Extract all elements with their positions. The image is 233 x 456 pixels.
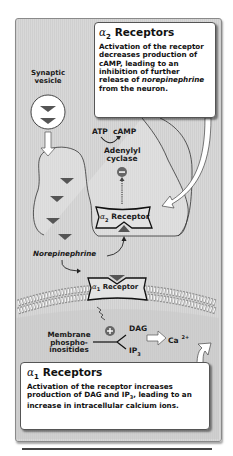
- atp-label: ATP: [92, 128, 108, 136]
- alpha1-callout-body: Activation of the receptor increases pro…: [27, 383, 203, 410]
- synaptic-vesicle-label: Synaptic vesicle: [30, 70, 66, 85]
- camp-label: cAMP: [113, 128, 136, 136]
- calcium-label: Ca2+: [168, 334, 189, 344]
- ip-subscript: 3: [137, 351, 140, 357]
- ip3-label: IP3: [129, 347, 141, 358]
- neurotransmitter-icon: [58, 234, 72, 240]
- receptor-text: Receptor: [103, 283, 139, 291]
- alpha2-callout-title: α2 Receptors: [99, 26, 211, 43]
- norepinephrine-label: Norepinephrine: [33, 250, 96, 258]
- reuptake-arrow-icon: [107, 240, 124, 256]
- alpha1-receptors-callout: α1 Receptors Activation of the receptor …: [20, 362, 210, 430]
- alpha1-receptor-label: α1 Receptor: [92, 284, 138, 294]
- alpha-subscript: 1: [97, 286, 100, 292]
- ca-superscript: 2+: [182, 334, 190, 340]
- adenylyl-cyclase-label: Adenylyl cyclase: [104, 147, 140, 163]
- alpha2-callout-body: Activation of the receptor decreases pro…: [99, 43, 211, 93]
- atp-camp-arrow-icon: [101, 137, 118, 143]
- alpha2-receptor-label: α2 Receptor: [100, 213, 149, 224]
- dag-label: DAG: [129, 325, 147, 333]
- alpha-subscript: 2: [106, 33, 111, 41]
- alpha-subscript: 1: [34, 373, 39, 381]
- alpha2-receptors-callout: α2 Receptors Activation of the receptor …: [94, 22, 216, 118]
- callout-title-text: Receptors: [115, 26, 175, 38]
- callout-title-text: Receptors: [43, 366, 103, 378]
- ca-text: Ca: [168, 336, 179, 345]
- alpha1-callout-title: α1 Receptors: [27, 366, 203, 383]
- alpha-subscript: 2: [105, 217, 108, 223]
- membrane-phosphoinositides-label: Membrane phospho- inositides: [46, 331, 92, 354]
- divider-line: [22, 448, 212, 450]
- diffusion-arrow-icon: [62, 260, 78, 271]
- body-text: from the neuron.: [99, 84, 168, 93]
- receptor-text: Receptor: [111, 212, 149, 221]
